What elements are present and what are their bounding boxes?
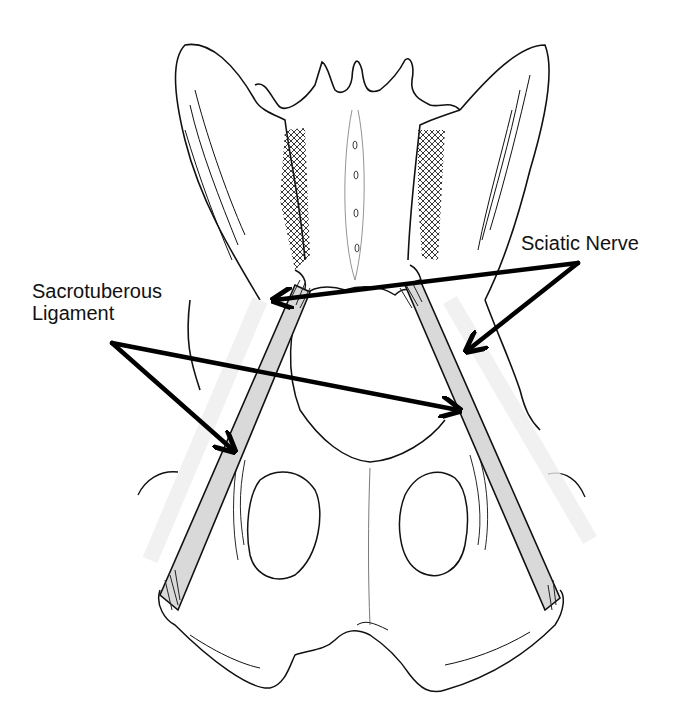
label-line-2: Ligament bbox=[32, 302, 162, 324]
shading-strokes bbox=[234, 450, 488, 560]
sacroiliac-hatch-right bbox=[418, 130, 445, 260]
anatomy-figure: Sciatic Nerve Sacrotuberous Ligament bbox=[0, 0, 675, 711]
sacrotuberous-ligament-arrows bbox=[112, 343, 458, 450]
label-sacrotuberous-ligament: Sacrotuberous Ligament bbox=[32, 280, 162, 324]
ilium-left bbox=[176, 44, 260, 300]
pelvis-drawing bbox=[0, 0, 675, 711]
sacroiliac-hatch-left bbox=[280, 128, 310, 270]
obturator-foramen-right bbox=[400, 472, 468, 575]
sacrotuberous-ligament-left bbox=[160, 280, 310, 610]
obturator-foramen-left bbox=[248, 472, 320, 579]
label-sciatic-nerve: Sciatic Nerve bbox=[521, 232, 639, 254]
label-line-1: Sacrotuberous bbox=[32, 280, 162, 302]
